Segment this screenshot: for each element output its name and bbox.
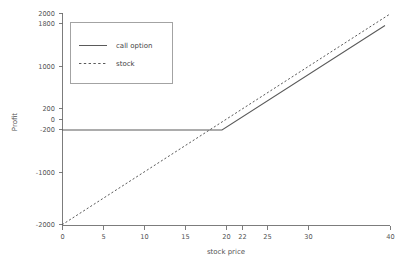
- chart-figure: 2000 1800 1000 200 0 -200 -1000 -2000 0 …: [0, 0, 408, 264]
- x-tick-label-15: 15: [181, 233, 189, 241]
- x-tick-label-40: 40: [386, 233, 394, 241]
- x-tick-label-0: 0: [60, 233, 64, 241]
- profit-vs-stock-price-chart: 2000 1800 1000 200 0 -200 -1000 -2000 0 …: [0, 0, 408, 264]
- x-tick-label-22: 22: [238, 233, 246, 241]
- chart-legend: call option stock: [71, 23, 173, 84]
- y-tick-label-1000: 1000: [38, 63, 55, 71]
- x-tick-label-5: 5: [101, 233, 105, 241]
- x-tick-label-10: 10: [140, 233, 148, 241]
- x-tick-label-30: 30: [304, 233, 312, 241]
- legend-label-call-option: call option: [116, 42, 152, 50]
- x-tick-label-25: 25: [263, 233, 271, 241]
- legend-box: [71, 23, 173, 84]
- y-tick-label-1800: 1800: [38, 20, 55, 28]
- y-axis-ticks: [59, 14, 63, 225]
- y-tick-label-neg200: -200: [40, 126, 55, 134]
- y-axis-title: Profit: [11, 113, 19, 132]
- y-tick-label-neg2000: -2000: [36, 221, 55, 229]
- x-tick-label-20: 20: [222, 233, 230, 241]
- x-axis-title: stock price: [207, 248, 245, 256]
- y-tick-label-0: 0: [51, 116, 55, 124]
- y-tick-label-neg1000: -1000: [36, 169, 55, 177]
- x-axis-ticks: [63, 226, 391, 230]
- y-tick-label-2000: 2000: [38, 10, 55, 18]
- y-tick-label-200: 200: [42, 105, 55, 113]
- legend-label-stock: stock: [116, 60, 136, 68]
